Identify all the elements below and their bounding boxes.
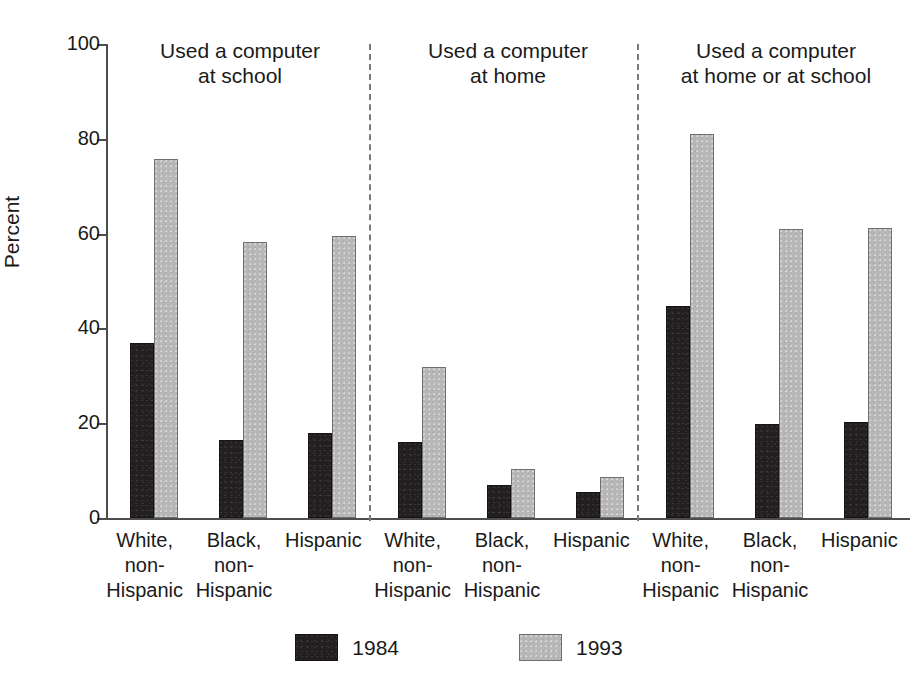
category-label-line: Black,: [457, 528, 546, 553]
x-axis-baseline: [106, 518, 910, 520]
y-axis-tick-label: 40: [78, 317, 100, 337]
category-label-line: White,: [100, 528, 189, 553]
bar-1984: [308, 433, 332, 518]
bar-1984: [219, 440, 243, 518]
bar-1984: [755, 424, 779, 518]
category-label-line: Hispanic: [457, 578, 546, 603]
category-label: White,non-Hispanic: [368, 528, 457, 603]
category-label-line: Black,: [189, 528, 278, 553]
bar-1993: [779, 229, 803, 518]
category-label-line: Hispanic: [368, 578, 457, 603]
category-label-line: non-: [725, 553, 814, 578]
category-label-line: Hispanic: [279, 528, 368, 553]
y-axis-tick-label: 60: [78, 223, 100, 243]
y-axis-line: [106, 44, 108, 518]
category-label: Black,non-Hispanic: [725, 528, 814, 603]
category-label-line: non-: [457, 553, 546, 578]
category-label: Black,non-Hispanic: [457, 528, 546, 603]
category-label: Hispanic: [547, 528, 636, 553]
panel-title-line: at home: [374, 63, 642, 88]
panel-title-line: Used a computer: [106, 38, 374, 63]
category-label-line: Hispanic: [815, 528, 904, 553]
panel-title-line: at school: [106, 63, 374, 88]
category-label-line: White,: [636, 528, 725, 553]
legend-label-1984: 1984: [352, 636, 399, 660]
category-label-line: Hispanic: [636, 578, 725, 603]
legend-entry: 1984: [295, 634, 399, 661]
bar-1993: [511, 469, 535, 518]
category-label: White,non-Hispanic: [100, 528, 189, 603]
y-axis-title: Percent: [0, 196, 24, 268]
category-label-line: non-: [368, 553, 457, 578]
y-axis-tick-label: 100: [67, 33, 100, 53]
y-axis-tick-label: 20: [78, 412, 100, 432]
category-label-line: non-: [100, 553, 189, 578]
legend-swatch-1984: [295, 634, 338, 661]
category-label: Black,non-Hispanic: [189, 528, 278, 603]
category-label-line: non-: [189, 553, 278, 578]
category-label-line: White,: [368, 528, 457, 553]
bar-1993: [600, 477, 624, 518]
chart-figure: 100806040200 Used a computerat schoolUse…: [0, 0, 918, 694]
legend-swatch-1993: [519, 634, 562, 661]
panel-title: Used a computerat school: [106, 38, 374, 88]
panel-title: Used a computerat home or at school: [642, 38, 910, 88]
panel-title: Used a computerat home: [374, 38, 642, 88]
bar-1984: [576, 492, 600, 518]
bar-1993: [690, 134, 714, 518]
panel-divider-line: [637, 44, 639, 521]
category-label: Hispanic: [279, 528, 368, 553]
category-label-line: Hispanic: [100, 578, 189, 603]
y-axis-tick-label: 80: [78, 128, 100, 148]
bar-1993: [422, 367, 446, 518]
bar-1984: [130, 343, 154, 518]
plot-area: 100806040200 Used a computerat schoolUse…: [106, 44, 910, 518]
bar-1984: [398, 442, 422, 518]
bar-1993: [243, 242, 267, 518]
bar-1993: [154, 159, 178, 518]
category-label-line: Black,: [725, 528, 814, 553]
bar-1993: [868, 228, 892, 518]
legend-label-1993: 1993: [576, 636, 623, 660]
category-label-line: Hispanic: [547, 528, 636, 553]
y-axis-tick-label: 0: [89, 507, 100, 527]
category-label: White,non-Hispanic: [636, 528, 725, 603]
chart-legend: 19841993: [0, 634, 918, 661]
bar-1984: [844, 422, 868, 518]
bar-1984: [666, 306, 690, 518]
panel-divider-line: [369, 44, 371, 521]
category-label: Hispanic: [815, 528, 904, 553]
panel-title-line: Used a computer: [374, 38, 642, 63]
legend-entry: 1993: [519, 634, 623, 661]
panel-title-line: Used a computer: [642, 38, 910, 63]
bar-1993: [332, 236, 356, 519]
panel-title-line: at home or at school: [642, 63, 910, 88]
category-label-line: Hispanic: [725, 578, 814, 603]
bar-1984: [487, 485, 511, 518]
category-label-line: Hispanic: [189, 578, 278, 603]
category-label-line: non-: [636, 553, 725, 578]
